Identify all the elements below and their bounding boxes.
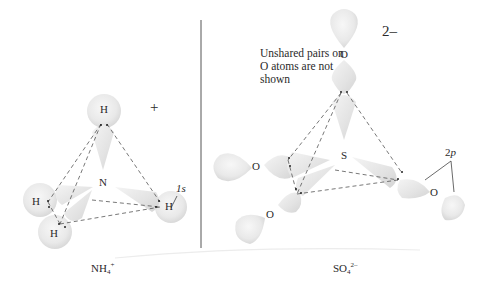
sulfate-ion-model bbox=[213, 9, 465, 244]
sulfur-lobe-top bbox=[332, 95, 356, 140]
figure-canvas: H H H H N + 1s NH4+ 2– Unshared pairs on… bbox=[0, 0, 493, 292]
oxygen-left-outer-lobe bbox=[213, 153, 252, 181]
molecular-orbital-diagram bbox=[0, 0, 493, 292]
atom-label-h-left: H bbox=[32, 196, 40, 207]
ammonium-charge: + bbox=[150, 100, 158, 115]
atom-label-o-lowerleft: O bbox=[266, 209, 274, 220]
atom-label-o-top: O bbox=[340, 49, 348, 60]
central-atom-label-n: N bbox=[99, 177, 107, 188]
atom-label-h-top: H bbox=[100, 104, 108, 115]
hydrogen-left-sphere bbox=[23, 183, 57, 217]
note-unshared-pairs: Unshared pairs on O atoms are not shown bbox=[260, 47, 350, 86]
atom-label-h-right: H bbox=[165, 201, 173, 212]
atom-label-o-left: O bbox=[252, 161, 260, 172]
caption-sulfate: SO42– bbox=[333, 262, 358, 276]
faint-curve bbox=[115, 249, 420, 258]
orbital-label-1s: 1s bbox=[176, 183, 186, 194]
oxygen-right-outer-lobe bbox=[442, 195, 466, 220]
sulfate-charge: 2– bbox=[382, 24, 397, 39]
atom-label-o-right: O bbox=[430, 187, 438, 198]
atom-label-h-front: H bbox=[50, 228, 58, 239]
oxygen-right-inner-lobe bbox=[397, 179, 430, 198]
orbital-label-2p: 2p bbox=[445, 147, 456, 158]
caption-ammonium: NH4+ bbox=[91, 262, 114, 276]
oxygen-lowerleft-outer-lobe bbox=[235, 215, 265, 244]
oxygen-lowerleft-inner-lobe bbox=[278, 192, 301, 212]
oxygen-top-outer-lobe bbox=[330, 9, 358, 48]
ammonium-ion-model bbox=[23, 94, 187, 249]
central-atom-label-s: S bbox=[341, 150, 347, 161]
